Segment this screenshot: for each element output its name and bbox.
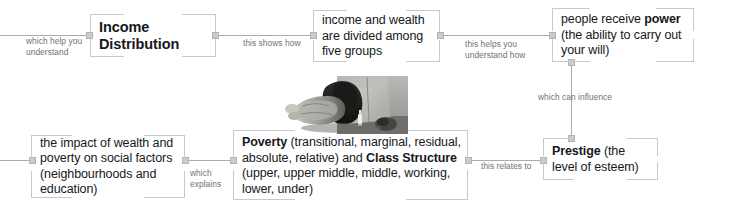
node-income-wealth-divided[interactable]: income and wealth are divided among five… xyxy=(313,10,440,62)
node-border-piece xyxy=(543,179,574,180)
connector-divided-to-power[interactable] xyxy=(440,35,554,36)
node-label: Income Distribution xyxy=(99,19,209,53)
node-border-piece xyxy=(313,61,347,62)
edge-label-this-shows-how: this shows how xyxy=(243,38,323,49)
node-border-piece xyxy=(406,199,468,200)
node-border-piece xyxy=(90,14,91,32)
node-poverty-class-structure[interactable]: Poverty (transitional, marginal, residua… xyxy=(233,130,468,200)
poverty-photograph xyxy=(283,76,408,134)
node-border-piece xyxy=(543,138,574,139)
connector-income-distribution-to-divided[interactable] xyxy=(216,35,315,36)
node-border-piece xyxy=(656,8,694,9)
node-border-piece xyxy=(182,14,216,15)
node-border-piece xyxy=(182,56,216,57)
node-border-piece xyxy=(693,8,694,31)
node-impact-wealth-poverty[interactable]: the impact of wealth and poverty on soci… xyxy=(31,135,185,198)
node-border-piece xyxy=(552,61,590,62)
node-border-piece xyxy=(313,10,314,32)
node-border-piece xyxy=(406,61,440,62)
node-prestige[interactable]: Prestige (the level of esteem) xyxy=(543,138,658,180)
node-border-piece xyxy=(627,179,658,180)
node-border-piece xyxy=(233,130,234,160)
edge-label-this-relates-to: this relates to xyxy=(481,161,561,172)
node-border-piece xyxy=(693,39,694,62)
node-border-piece xyxy=(406,10,440,11)
node-income-distribution[interactable]: Income Distribution xyxy=(90,14,216,57)
node-border-piece xyxy=(215,14,216,32)
node-border-piece xyxy=(90,14,124,15)
node-border-piece xyxy=(31,135,32,162)
node-border-piece xyxy=(439,40,440,62)
node-border-piece xyxy=(627,138,658,139)
connector-impact-to-poverty[interactable] xyxy=(185,160,235,161)
node-border-piece xyxy=(313,10,347,11)
node-label: people receive power (the ability to car… xyxy=(561,12,687,59)
node-border-piece xyxy=(184,135,185,162)
node-border-piece xyxy=(656,61,694,62)
node-label: Poverty (transitional, marginal, residua… xyxy=(242,135,461,197)
node-border-piece xyxy=(552,8,590,9)
concept-map-canvas: Income Distribution income and wealth ar… xyxy=(0,0,730,216)
node-border-piece xyxy=(543,138,544,156)
node-border-piece xyxy=(215,39,216,57)
node-border-piece xyxy=(467,130,468,160)
edge-label-which-help-you-understand: which help you understand xyxy=(26,36,106,57)
node-border-piece xyxy=(233,199,295,200)
node-label: Prestige (the level of esteem) xyxy=(552,144,651,175)
poverty-photograph-graphic xyxy=(283,76,408,134)
node-label: the impact of wealth and poverty on soci… xyxy=(40,136,178,198)
node-border-piece xyxy=(184,171,185,198)
node-people-receive-power[interactable]: people receive power (the ability to car… xyxy=(552,8,694,62)
edge-label-which-explains: which explains xyxy=(190,168,235,189)
node-border-piece xyxy=(467,170,468,200)
node-border-piece xyxy=(552,8,553,31)
node-border-piece xyxy=(657,162,658,180)
node-border-piece xyxy=(406,130,468,131)
node-border-piece xyxy=(31,171,32,198)
node-label: income and wealth are divided among five… xyxy=(322,13,433,60)
node-border-piece xyxy=(657,138,658,156)
node-border-piece xyxy=(439,10,440,32)
edge-label-which-can-influence: which can influence xyxy=(538,92,638,103)
edge-label-this-helps-you-understand-how: this helps you understand how xyxy=(465,39,555,60)
